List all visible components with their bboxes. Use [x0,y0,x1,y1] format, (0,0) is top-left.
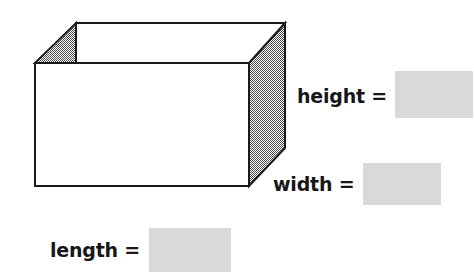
height-label-text: height = [297,87,387,106]
box-front-face [35,63,249,186]
height-answer-blank[interactable] [395,71,473,118]
length-label-text: length = [50,241,140,260]
width-label-row: width = [273,163,441,205]
width-label-text: width = [273,175,354,194]
box-diagram [0,0,320,210]
length-answer-blank[interactable] [149,228,231,272]
box-left-rim-triangle [35,23,76,63]
height-label-row: height = [297,74,473,118]
length-label-row: length = [50,228,231,272]
worksheet-page: height = width = length = [0,0,474,273]
box-inner-back-wall [76,23,285,63]
width-answer-blank[interactable] [363,163,441,205]
